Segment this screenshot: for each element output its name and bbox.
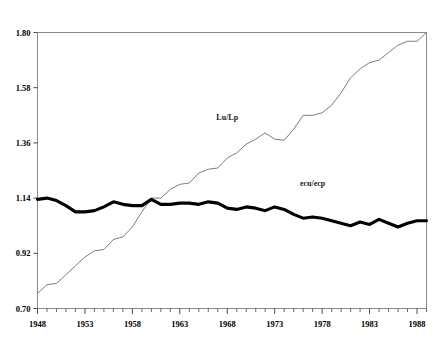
chart-figure: 1.801.581.361.140.920.70 194819531958196… bbox=[0, 0, 445, 337]
y-tick-label: 0.92 bbox=[16, 248, 31, 258]
series-line-ecu-ecp bbox=[38, 198, 427, 227]
x-tick-label: 1963 bbox=[171, 319, 188, 329]
y-tick-label: 0.70 bbox=[16, 304, 31, 314]
line-chart: 1.801.581.361.140.920.70 194819531958196… bbox=[0, 0, 445, 337]
y-tick-label: 1.80 bbox=[16, 28, 31, 38]
series-annotation: Lu/Lp bbox=[216, 113, 238, 122]
y-tick-label: 1.58 bbox=[16, 83, 31, 93]
y-axis-tick-labels: 1.801.581.361.140.920.70 bbox=[16, 28, 32, 314]
y-tick-label: 1.36 bbox=[16, 138, 31, 148]
chart-axes bbox=[38, 33, 427, 309]
series-line-lu-lp bbox=[38, 33, 427, 294]
data-series-group bbox=[38, 33, 427, 294]
x-axis-tick-labels: 194819531958196319681973197819831988 bbox=[29, 319, 426, 329]
x-axis-ticks bbox=[38, 309, 427, 315]
x-tick-label: 1958 bbox=[124, 319, 141, 329]
x-tick-label: 1953 bbox=[76, 319, 93, 329]
x-tick-label: 1973 bbox=[266, 319, 283, 329]
series-annotation: ecu/ecp bbox=[300, 179, 326, 188]
x-tick-label: 1988 bbox=[409, 319, 426, 329]
x-tick-label: 1983 bbox=[361, 319, 378, 329]
y-axis-ticks bbox=[34, 33, 38, 309]
x-tick-label: 1978 bbox=[314, 319, 331, 329]
x-tick-label: 1968 bbox=[219, 319, 236, 329]
series-annotations: Lu/Lpecu/ecp bbox=[216, 113, 325, 187]
y-tick-label: 1.14 bbox=[16, 193, 32, 203]
axis-frame bbox=[38, 33, 427, 309]
x-tick-label: 1948 bbox=[29, 319, 46, 329]
